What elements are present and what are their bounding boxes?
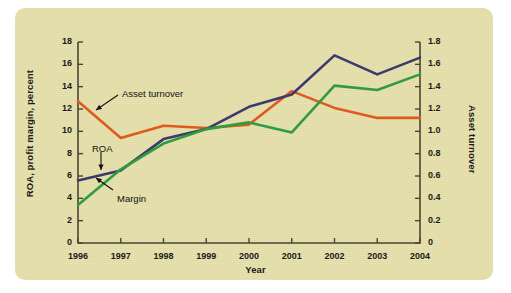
- chart-plot-area: [0, 0, 511, 293]
